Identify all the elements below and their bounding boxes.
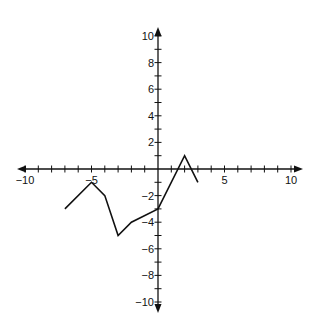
arrow-right-icon: [294, 166, 303, 173]
y-tick-label: −10: [135, 296, 154, 308]
axes: [17, 27, 303, 313]
y-tick-label: −8: [141, 269, 154, 281]
y-tick-label: −4: [141, 216, 154, 228]
y-tick-label: −6: [141, 243, 154, 255]
arrow-up-icon: [155, 27, 162, 36]
coordinate-plane-chart: −10−5510108642−2−4−6−8−10: [0, 0, 326, 331]
y-tick-label: −2: [141, 190, 154, 202]
y-tick-label: 6: [148, 83, 154, 95]
y-tick-label: 8: [148, 57, 154, 69]
y-tick-label: 2: [148, 136, 154, 148]
x-tick-label: 5: [221, 174, 227, 186]
x-tick-label: −5: [85, 174, 98, 186]
x-tick-label: −10: [16, 174, 35, 186]
x-tick-label: 10: [285, 174, 297, 186]
y-tick-label: 4: [148, 110, 154, 122]
arrow-down-icon: [155, 304, 162, 313]
y-tick-label: 10: [142, 30, 154, 42]
